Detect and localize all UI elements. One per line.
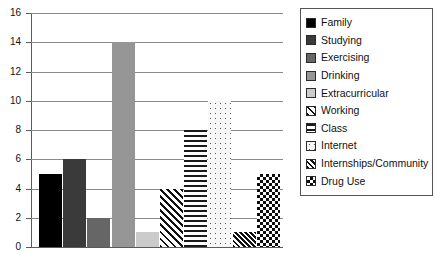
bar-working [160, 189, 183, 248]
legend-item-label: Internships/Community [321, 158, 428, 169]
gridline-8 [31, 130, 283, 131]
legend-item-label: Class [321, 123, 347, 134]
gridline-12 [31, 72, 283, 73]
y-tick-label-8: 8 [1, 125, 21, 135]
bar-family [39, 174, 62, 247]
legend-item-class: Class [306, 120, 428, 138]
legend-item-label: Working [321, 105, 359, 116]
bar-extracurricular [136, 232, 159, 247]
legend-swatch-icon [306, 18, 316, 28]
legend-swatch-icon [306, 141, 316, 151]
bar-drug-use [257, 174, 280, 247]
gridline-16 [31, 13, 283, 14]
legend-swatch-icon [306, 53, 316, 63]
y-tick-label-6: 6 [1, 154, 21, 164]
bar-chart-screenshot: 0246810121416 FamilyStudyingExercisingDr… [0, 0, 435, 269]
gridline-14 [31, 42, 283, 43]
legend-swatch-icon [306, 159, 316, 169]
legend-item-label: Drug Use [321, 176, 365, 187]
y-tick-label-12: 12 [1, 67, 21, 77]
y-tick-label-4: 4 [1, 184, 21, 194]
bar-drinking [112, 42, 135, 247]
legend-item-internships-community: Internships/Community [306, 155, 428, 173]
plot-area [31, 13, 283, 247]
legend-item-extracurricular: Extracurricular [306, 84, 428, 102]
legend: FamilyStudyingExercisingDrinkingExtracur… [300, 8, 433, 196]
bar-internships-community [233, 232, 256, 247]
bar-class [184, 130, 207, 247]
legend-item-working: Working [306, 102, 428, 120]
legend-item-label: Internet [321, 140, 357, 151]
legend-item-label: Drinking [321, 70, 360, 81]
legend-swatch-icon [306, 176, 316, 186]
legend-item-studying: Studying [306, 32, 428, 50]
legend-item-exercising: Exercising [306, 49, 428, 67]
legend-item-label: Extracurricular [321, 88, 389, 99]
legend-item-internet: Internet [306, 137, 428, 155]
legend-swatch-icon [306, 106, 316, 116]
gridline-10 [31, 101, 283, 102]
legend-item-drug-use: Drug Use [306, 172, 428, 190]
legend-item-label: Family [321, 17, 352, 28]
bar-studying [63, 159, 86, 247]
legend-item-label: Studying [321, 35, 362, 46]
legend-swatch-icon [306, 71, 316, 81]
y-tick-label-14: 14 [1, 37, 21, 47]
gridline-0 [31, 247, 283, 248]
legend-item-family: Family [306, 14, 428, 32]
y-tick-label-2: 2 [1, 213, 21, 223]
legend-swatch-icon [306, 35, 316, 45]
y-tick-label-0: 0 [1, 242, 21, 252]
legend-item-drinking: Drinking [306, 67, 428, 85]
bar-internet [208, 101, 231, 247]
legend-item-label: Exercising [321, 52, 369, 63]
bar-exercising [87, 218, 110, 247]
y-tick-label-10: 10 [1, 96, 21, 106]
legend-swatch-icon [306, 88, 316, 98]
legend-swatch-icon [306, 123, 316, 133]
y-tick-label-16: 16 [1, 8, 21, 18]
